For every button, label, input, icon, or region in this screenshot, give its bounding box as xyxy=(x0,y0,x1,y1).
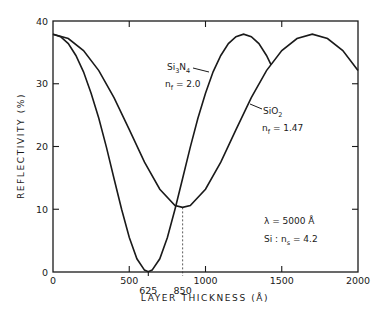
y-tick-label: 0 xyxy=(42,267,48,278)
y-tick-label: 10 xyxy=(36,204,48,215)
reflectivity-chart: 0500625850100015002000 010203040 Si3N4 n… xyxy=(0,0,388,311)
y-axis-title: REFLECTIVITY (%) xyxy=(16,93,26,199)
x-tick-label: 1000 xyxy=(193,275,217,286)
si3n4-index-label: nf = 2.0 xyxy=(165,79,201,92)
si3n4-leader-line xyxy=(193,68,209,72)
y-tick-label: 40 xyxy=(36,16,48,27)
sio2-label: SiO2 xyxy=(263,106,282,119)
si3n4-curve xyxy=(53,34,271,272)
si3n4-label: Si3N4 xyxy=(167,62,190,75)
y-tick-label: 20 xyxy=(36,141,48,152)
substrate-annotation: Si : ns = 4.2 xyxy=(264,234,318,247)
x-tick-label: 500 xyxy=(120,275,138,286)
x-tick-label: 1500 xyxy=(270,275,294,286)
y-tick-label: 30 xyxy=(36,78,48,89)
x-tick-label: 2000 xyxy=(346,275,370,286)
wavelength-annotation: λ = 5000 Å xyxy=(264,215,315,226)
x-tick-label: 0 xyxy=(50,275,56,286)
sio2-index-label: nf = 1.47 xyxy=(262,123,303,136)
sio2-leader-line xyxy=(250,104,262,109)
y-tick-labels: 010203040 xyxy=(36,16,48,278)
x-axis-title: LAYER THICKNESS (Å) xyxy=(141,292,269,303)
